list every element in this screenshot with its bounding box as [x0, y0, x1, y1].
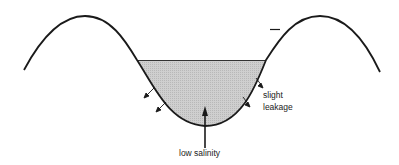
water-body	[137, 60, 266, 126]
low-salinity-label: low salinity	[179, 148, 220, 159]
leakage-label: leakage	[263, 102, 293, 113]
basin-diagram	[0, 0, 399, 165]
slight-label: slight	[263, 90, 283, 101]
leakage-arrow-icon	[156, 102, 166, 112]
leakage-arrow-icon	[144, 88, 154, 98]
